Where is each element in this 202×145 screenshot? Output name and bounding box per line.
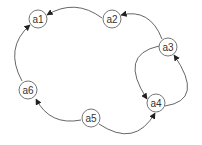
node-label: a6 [22, 85, 34, 96]
node-a5[interactable]: a5 [82, 109, 100, 127]
node-label: a3 [162, 42, 174, 53]
node-a3[interactable]: a3 [159, 38, 177, 56]
node-a4[interactable]: a4 [147, 94, 165, 112]
edge-a6-a1 [15, 25, 30, 81]
edge-a5-a4 [99, 113, 155, 134]
node-label: a2 [106, 14, 118, 25]
edge-a3-a2 [121, 14, 162, 39]
edge-a5-a6 [36, 99, 81, 121]
node-a6[interactable]: a6 [19, 81, 37, 99]
node-a2[interactable]: a2 [103, 10, 121, 28]
edge-a2-a1 [47, 7, 102, 18]
node-label: a4 [150, 98, 162, 109]
node-label: a1 [32, 14, 44, 25]
edge-a3-a4 [135, 46, 159, 99]
edge-a4-a3 [165, 55, 188, 106]
node-label: a5 [85, 113, 97, 124]
node-a1[interactable]: a1 [29, 10, 47, 28]
graph-diagram: a1 a2 a3 a4 a5 a6 [0, 0, 202, 145]
